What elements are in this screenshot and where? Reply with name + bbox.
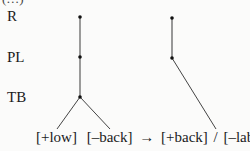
arrow-icon: → [139, 130, 154, 145]
left-tb-low-branch [57, 97, 80, 129]
left-tb-back-branch [80, 97, 110, 129]
rule-slash: / [214, 130, 218, 145]
rule-context-lab: [–lab] [223, 130, 250, 145]
phonological-rule: [+low] [–back] → [+back] / [–lab] — [36, 130, 250, 145]
rule-output: [+back] [161, 130, 208, 145]
rule-input-back: [–back] [87, 130, 133, 145]
right-pl-node [170, 56, 174, 60]
rule-input-low: [+low] [36, 130, 77, 145]
left-tree [57, 15, 110, 129]
right-pl-lab-branch [172, 58, 216, 129]
left-tb-node [78, 95, 82, 99]
left-r-node [78, 15, 82, 19]
right-tree [170, 16, 216, 129]
left-pl-node [78, 55, 82, 59]
right-r-node [170, 16, 174, 20]
